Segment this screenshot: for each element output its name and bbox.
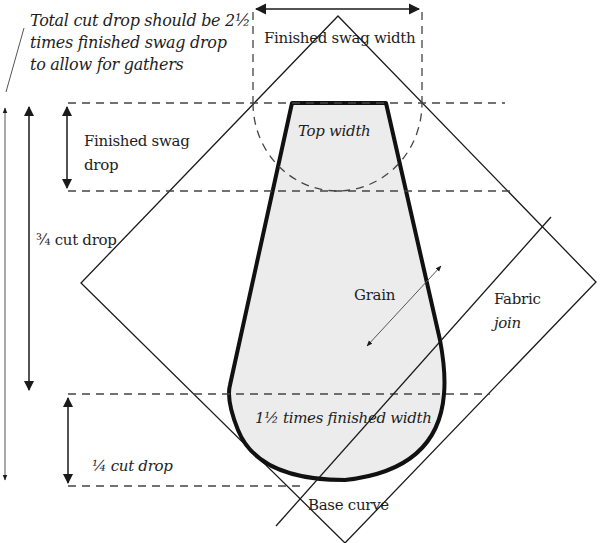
grain-label: Grain xyxy=(354,284,395,306)
fabric-join-label-line2: join xyxy=(494,312,521,334)
top-width-label: Top width xyxy=(298,120,370,142)
quarter-cut-drop-label: ¼ cut drop xyxy=(92,455,173,477)
finished-swag-drop-label-line2: drop xyxy=(84,154,118,176)
total-cut-drop-note-line1: Total cut drop should be 2½ xyxy=(30,10,250,32)
fabric-join-label-line1: Fabric xyxy=(494,288,541,310)
total-cut-drop-note-line3: to allow for gathers xyxy=(30,54,183,76)
total-cut-drop-note-line2: times finished swag drop xyxy=(30,32,227,54)
finished-swag-width-label: Finished swag width xyxy=(264,27,415,49)
one-half-times-finished-width-label: 1½ times finished width xyxy=(255,407,432,429)
three-quarter-cut-drop-label: ¾ cut drop xyxy=(36,229,117,251)
base-curve-label: Base curve xyxy=(308,494,389,516)
swag-pattern-diagram xyxy=(0,0,603,543)
finished-swag-drop-label-line1: Finished swag xyxy=(84,130,189,152)
note-leader-line xyxy=(6,28,24,92)
